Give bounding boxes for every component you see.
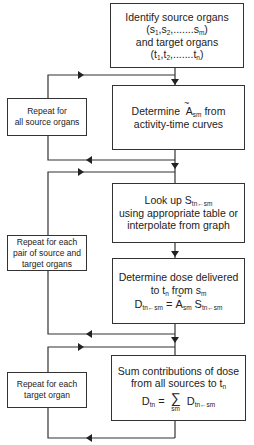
from-label: from <box>204 105 225 117</box>
sigma-icon: ∑sm <box>171 392 181 412</box>
loop-target-organ-box: Repeat for each target organ <box>7 372 87 408</box>
loop-source-line2: all source organs <box>15 117 80 128</box>
lookup-line3: interpolate from graph <box>127 219 230 232</box>
identify-line4: (t1,t2,.......tn) <box>151 48 204 61</box>
identify-line2: (s1,s2,.......sm) <box>146 23 208 36</box>
loop-pair-line1: Repeat for each <box>17 237 77 248</box>
lookup-line1: Look up Stn←sm <box>145 194 213 207</box>
loop-pair-box: Repeat for each pair of source and targe… <box>7 235 87 271</box>
loop-source-organs-box: Repeat for all source organs <box>7 98 87 136</box>
sum-line1: Sum contributions of dose <box>118 365 239 378</box>
lookup-line2: using appropriate table or <box>119 207 238 220</box>
identify-line3: and target organs <box>136 36 218 49</box>
sum-equation: Dtn = ∑sm Dtn←sm <box>142 392 216 412</box>
determine-activity-box: Determine Asm from activity-time curves <box>112 85 245 150</box>
determine-a-line1: Determine Asm from <box>132 105 226 118</box>
loop-pair-line3: target organs <box>22 259 72 270</box>
lookup-s-box: Look up Stn←sm using appropriate table o… <box>112 183 245 243</box>
dose-line1: Determine dose delivered <box>119 271 239 284</box>
loop-target-line2: target organ <box>24 390 70 401</box>
loop-source-line1: Repeat for <box>27 106 67 117</box>
identify-organs-box: Identify source organs (s1,s2,.......sm)… <box>110 3 244 68</box>
sum-dose-box: Sum contributions of dose from all sourc… <box>111 355 246 421</box>
dose-equation: Dtn←sm = Asm Stn←sm <box>134 298 222 311</box>
identify-line1: Identify source organs <box>125 11 228 24</box>
loop-target-line1: Repeat for each <box>17 379 77 390</box>
determine-a-line2: activity-time curves <box>134 118 223 131</box>
determine-dose-box: Determine dose delivered to tn from sm D… <box>112 258 245 324</box>
cumulated-activity-symbol: Asm <box>183 105 202 118</box>
sum-line2: from all sources to tn <box>131 377 226 390</box>
determine-label: Determine <box>132 105 180 117</box>
loop-pair-line2: pair of source and <box>13 248 81 259</box>
